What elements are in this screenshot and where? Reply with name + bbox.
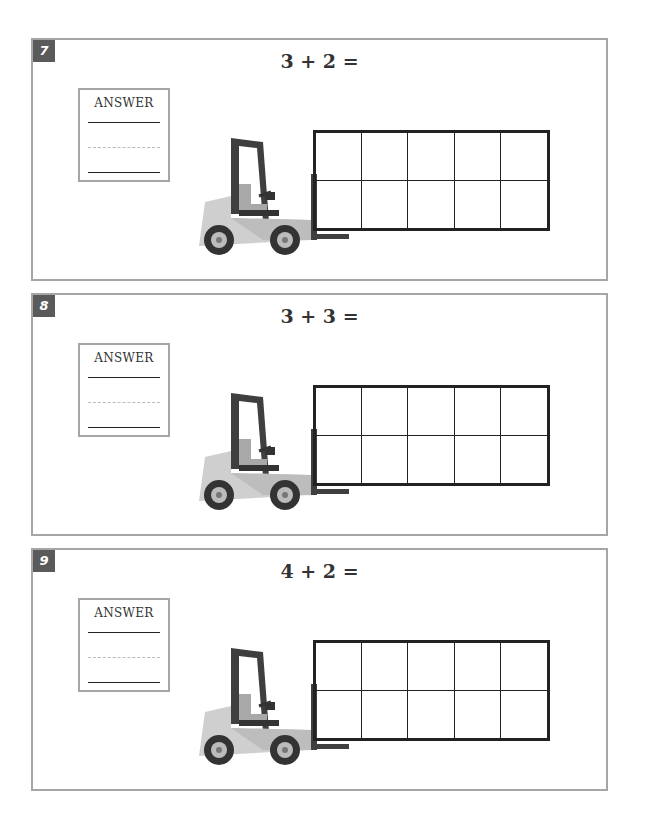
ten-frame-cell[interactable] [455, 388, 501, 436]
ten-frame [313, 640, 550, 741]
answer-line-bottom [88, 682, 160, 683]
answer-line-top [88, 632, 160, 633]
ten-frame-cell[interactable] [408, 643, 454, 691]
answer-label: ANSWER [80, 351, 168, 365]
ten-frame-cell[interactable] [408, 388, 454, 436]
ten-frame-cell[interactable] [455, 133, 501, 181]
equation: 4 + 2 = [33, 560, 606, 582]
answer-line-bottom [88, 427, 160, 428]
ten-frame-cell[interactable] [501, 388, 547, 436]
ten-frame-cell[interactable] [316, 388, 362, 436]
problem-panel-7: 7 3 + 2 = ANSWER [31, 38, 608, 281]
answer-line-top [88, 122, 160, 123]
answer-line-dashed [88, 657, 160, 658]
ten-frame-cell[interactable] [316, 133, 362, 181]
answer-line-top [88, 377, 160, 378]
ten-frame-cell[interactable] [362, 388, 408, 436]
answer-line-bottom [88, 172, 160, 173]
ten-frame-cell[interactable] [316, 436, 362, 484]
ten-frame-cell[interactable] [501, 181, 547, 229]
ten-frame [313, 385, 550, 486]
answer-line-dashed [88, 147, 160, 148]
ten-frame-cell[interactable] [362, 133, 408, 181]
answer-box[interactable]: ANSWER [78, 598, 170, 692]
ten-frame-cell[interactable] [408, 436, 454, 484]
ten-frame-cell[interactable] [455, 691, 501, 739]
ten-frame-cell[interactable] [316, 643, 362, 691]
answer-label: ANSWER [80, 96, 168, 110]
ten-frame-cell[interactable] [408, 133, 454, 181]
ten-frame-cell[interactable] [455, 436, 501, 484]
ten-frame-cell[interactable] [455, 181, 501, 229]
ten-frame-cell[interactable] [501, 133, 547, 181]
equation: 3 + 3 = [33, 305, 606, 327]
answer-label: ANSWER [80, 606, 168, 620]
ten-frame-cell[interactable] [501, 691, 547, 739]
answer-line-dashed [88, 402, 160, 403]
equation: 3 + 2 = [33, 50, 606, 72]
ten-frame-cell[interactable] [408, 691, 454, 739]
problem-panel-9: 9 4 + 2 = ANSWER [31, 548, 608, 791]
ten-frame-cell[interactable] [362, 643, 408, 691]
ten-frame-cell[interactable] [501, 643, 547, 691]
problem-panel-8: 8 3 + 3 = ANSWER [31, 293, 608, 536]
ten-frame-cell[interactable] [362, 436, 408, 484]
ten-frame-cell[interactable] [501, 436, 547, 484]
ten-frame-cell[interactable] [316, 181, 362, 229]
ten-frame-cell[interactable] [408, 181, 454, 229]
ten-frame-cell[interactable] [362, 181, 408, 229]
ten-frame [313, 130, 550, 231]
answer-box[interactable]: ANSWER [78, 343, 170, 437]
answer-box[interactable]: ANSWER [78, 88, 170, 182]
ten-frame-cell[interactable] [455, 643, 501, 691]
ten-frame-cell[interactable] [362, 691, 408, 739]
ten-frame-cell[interactable] [316, 691, 362, 739]
